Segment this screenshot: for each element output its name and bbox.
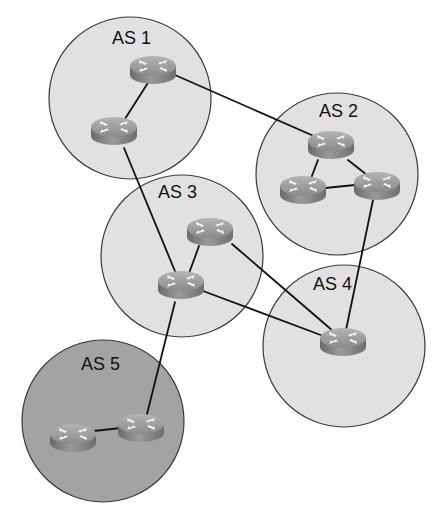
- router-icon: [308, 131, 354, 159]
- as1-label: AS 1: [112, 28, 151, 48]
- router-icon: [354, 172, 400, 200]
- router-icon: [280, 176, 326, 204]
- router-icon: [320, 328, 366, 356]
- router-icon: [91, 117, 137, 145]
- router-icon: [187, 218, 233, 246]
- network-diagram: AS 1 AS 2 AS 3 AS 4 AS 5: [0, 0, 446, 519]
- as2-label: AS 2: [319, 101, 358, 121]
- as3-label: AS 3: [158, 182, 197, 202]
- router-icon: [158, 271, 204, 299]
- router-icon: [130, 56, 176, 84]
- as4-label: AS 4: [313, 274, 352, 294]
- router-icon: [50, 424, 96, 452]
- router-icon: [118, 414, 164, 442]
- as5-label: AS 5: [81, 354, 120, 374]
